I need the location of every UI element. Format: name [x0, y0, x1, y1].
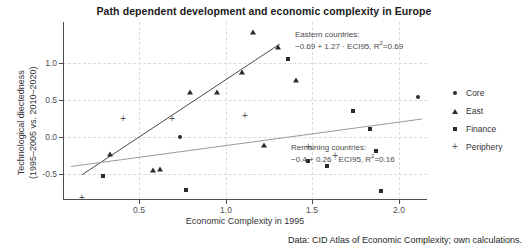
x-tick-1.5	[312, 200, 313, 204]
legend: Core East Finance + Periphery	[448, 84, 524, 156]
x-ticklabel-0.5: 0.5	[133, 205, 145, 215]
y-ticklabel-0.0: 0.0	[45, 132, 57, 142]
y-axis-label-line1: Technological diectedness	[16, 43, 28, 203]
data-point-east	[214, 90, 220, 95]
annotation-remaining-line1: Remaining countries:	[291, 143, 395, 153]
circle-marker-icon	[448, 91, 462, 95]
y-ticklabel-1.0: 1.0	[45, 58, 57, 68]
x-ticklabel-1.0: 1.0	[220, 205, 232, 215]
annotation-eastern-line1: Eastern countries:	[295, 30, 403, 40]
data-point-east	[107, 151, 113, 156]
y-ticklabel--0.5: -0.5	[42, 169, 57, 179]
data-point-periphery	[168, 113, 177, 122]
annotation-remaining-r2: =0.16	[374, 155, 394, 164]
data-point-finance	[379, 189, 383, 193]
annotation-remaining-eq: −0.4 + 0.26 · ECI95, R	[291, 155, 371, 164]
data-point-east	[293, 77, 299, 82]
y-ticklabel-0.5: 0.5	[45, 95, 57, 105]
annotation-remaining-fit: Remaining countries: −0.4 + 0.26 · ECI95…	[291, 143, 395, 165]
x-tick-2.0	[399, 200, 400, 204]
square-marker-icon	[448, 127, 462, 131]
data-point-east	[275, 44, 281, 49]
x-tick-1.0	[226, 200, 227, 204]
data-point-finance	[368, 127, 372, 131]
legend-label-east: East	[466, 106, 483, 116]
legend-label-finance: Finance	[466, 124, 496, 134]
x-tick-0.5	[139, 200, 140, 204]
data-point-periphery	[119, 114, 128, 123]
legend-item-periphery[interactable]: + Periphery	[448, 138, 524, 156]
legend-label-core: Core	[466, 88, 484, 98]
legend-item-east[interactable]: East	[448, 102, 524, 120]
data-point-finance	[184, 188, 188, 192]
data-point-finance	[325, 164, 329, 168]
annotation-eastern-line2: −0.69 + 1.27 · ECI95, R2=0.69	[295, 40, 403, 52]
data-point-east	[187, 90, 193, 95]
page-title: Path dependent development and economic …	[0, 5, 528, 17]
y-axis-label-line2: (1995–2005 vs. 2010–2020)	[28, 43, 40, 203]
data-point-periphery	[77, 192, 86, 201]
triangle-marker-icon	[448, 109, 462, 114]
source-caption: Data: CID Atlas of Economic Complexity; …	[288, 235, 522, 245]
x-ticklabel-1.5: 1.5	[306, 205, 318, 215]
data-point-finance	[351, 109, 355, 113]
data-point-east	[157, 166, 163, 171]
plot-panel: 1.0 0.5 0.0 -0.5 0.5 1.0 1.5 2.0 Eastern…	[63, 22, 427, 200]
data-point-east	[150, 168, 156, 173]
data-point-periphery	[241, 111, 250, 120]
legend-item-core[interactable]: Core	[448, 84, 524, 102]
y-axis-label: Technological diectedness (1995–2005 vs.…	[16, 43, 39, 203]
data-point-east	[250, 29, 256, 34]
data-point-east	[261, 142, 267, 147]
annotation-eastern-r2: =0.69	[383, 42, 403, 51]
annotation-eastern-eq: −0.69 + 1.27 · ECI95, R	[295, 42, 380, 51]
x-axis-label: Economic Complexity in 1995	[63, 216, 427, 226]
data-point-core	[178, 135, 182, 139]
x-ticklabel-2.0: 2.0	[393, 205, 405, 215]
chart-figure: Path dependent development and economic …	[0, 0, 528, 249]
data-point-finance	[101, 174, 105, 178]
data-point-finance	[286, 57, 290, 61]
plus-marker-icon: +	[448, 143, 462, 151]
annotation-eastern-fit: Eastern countries: −0.69 + 1.27 · ECI95,…	[295, 30, 403, 52]
data-point-core	[416, 95, 420, 99]
annotation-remaining-line2: −0.4 + 0.26 · ECI95, R2=0.16	[291, 153, 395, 165]
legend-item-finance[interactable]: Finance	[448, 120, 524, 138]
data-point-east	[239, 70, 245, 75]
legend-label-periphery: Periphery	[466, 142, 502, 152]
